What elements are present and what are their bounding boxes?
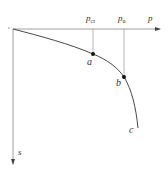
load-settlement-diagram: pcr pu p s a b c — [0, 0, 168, 170]
point-c-label: c — [129, 124, 134, 135]
point-a-label: a — [87, 56, 92, 67]
point-b-label: b — [116, 77, 121, 88]
p-axis-label: p — [147, 13, 153, 23]
p-u-label: pu — [117, 13, 126, 24]
point-b-marker — [122, 75, 126, 79]
origin-dot — [8, 27, 10, 29]
p-cr-label: pcr — [85, 13, 95, 24]
s-axis-label: s — [18, 147, 22, 157]
